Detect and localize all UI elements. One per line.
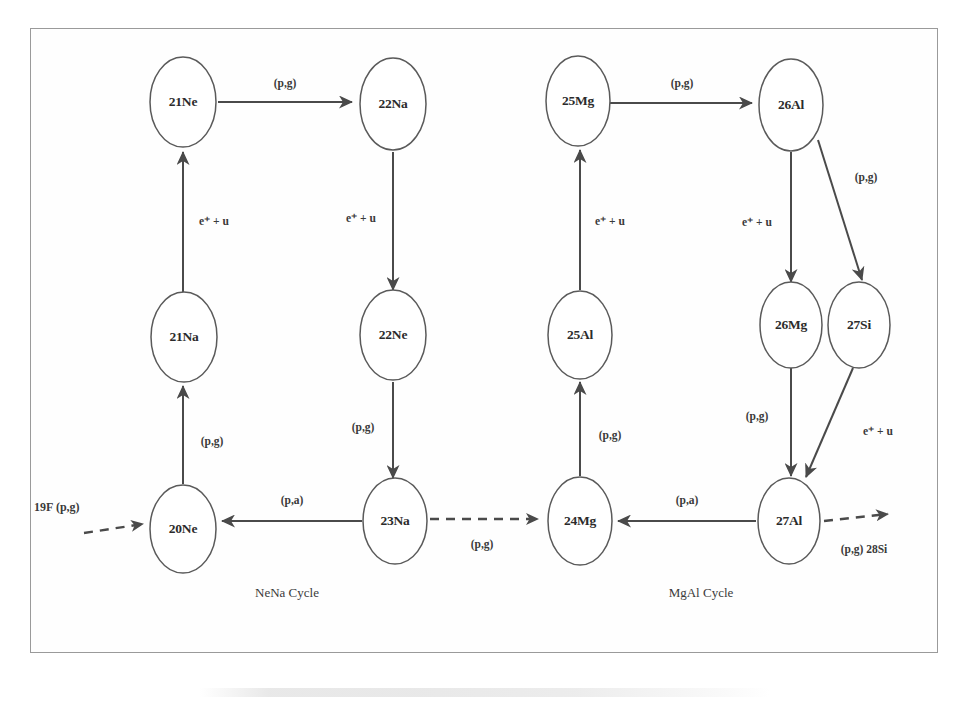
edge-label-mg24-al25: (p,g) [599, 429, 622, 442]
node-label-23na: 23Na [380, 513, 410, 528]
entry-label-19f: 19F (p,g) [34, 500, 80, 514]
edge-label-mg25-al26: (p,g) [671, 77, 694, 90]
edge-label-na21-ne21: e⁺ + u [199, 215, 229, 227]
node-label-24mg: 24Mg [564, 513, 597, 528]
edge-label-al25-mg25: e⁺ + u [595, 215, 625, 227]
node-23na: 23Na [363, 478, 427, 564]
bottom-caption-smudge [200, 688, 770, 697]
node-25mg: 25Mg [546, 56, 610, 146]
node-label-26al: 26Al [778, 97, 805, 112]
node-label-27si: 27Si [847, 317, 871, 332]
edge-label-al26-mg26: e⁺ + u [742, 216, 772, 228]
edge-label-ne20-na21: (p,g) [201, 435, 224, 448]
edge-label-mg26-al27: (p,g) [746, 410, 769, 423]
edge-label-bridge-na23-mg24: (p,g) [471, 538, 494, 551]
node-26mg: 26Mg [760, 282, 822, 368]
node-label-26mg: 26Mg [775, 317, 808, 332]
node-25al: 25Al [548, 291, 612, 379]
exit-label-28si: (p,g) 28Si [841, 543, 888, 556]
node-label-21ne: 21Ne [169, 94, 198, 109]
edge-label-al27-mg24: (p,a) [676, 494, 699, 507]
node-27si: 27Si [828, 282, 890, 368]
edge-label-ne22-na23: (p,g) [352, 421, 375, 434]
node-label-22na: 22Na [378, 96, 408, 111]
caption-nena-cycle: NeNa Cycle [255, 585, 319, 600]
node-22na: 22Na [360, 58, 426, 150]
caption-mgal-cycle: MgAl Cycle [669, 585, 734, 600]
edge-label-si27-al27: e⁺ + u [863, 425, 893, 437]
node-22ne: 22Ne [360, 290, 426, 380]
node-label-20ne: 20Ne [169, 521, 198, 536]
node-21ne: 21Ne [150, 57, 216, 147]
node-label-25mg: 25Mg [562, 93, 595, 108]
node-26al: 26Al [759, 59, 823, 151]
edge-label-al26-si27: (p,g) [855, 171, 878, 184]
nuclear-cycles-diagram: (p,g) e⁺ + u (p,g) (p,a) (p,g) e⁺ + u 19… [0, 0, 970, 704]
edge-label-na22-ne22: e⁺ + u [346, 212, 376, 224]
figure-root: (p,g) e⁺ + u (p,g) (p,a) (p,g) e⁺ + u 19… [0, 0, 970, 704]
node-27al: 27Al [758, 478, 820, 564]
node-21na: 21Na [151, 292, 217, 382]
node-24mg: 24Mg [548, 477, 612, 565]
node-label-22ne: 22Ne [379, 327, 408, 342]
node-label-21na: 21Na [169, 329, 199, 344]
node-20ne: 20Ne [150, 485, 216, 573]
node-label-25al: 25Al [567, 327, 594, 342]
edge-label-na23-ne20: (p,a) [281, 494, 304, 507]
edge-label-ne21-na22: (p,g) [274, 77, 297, 90]
node-label-27al: 27Al [776, 513, 803, 528]
